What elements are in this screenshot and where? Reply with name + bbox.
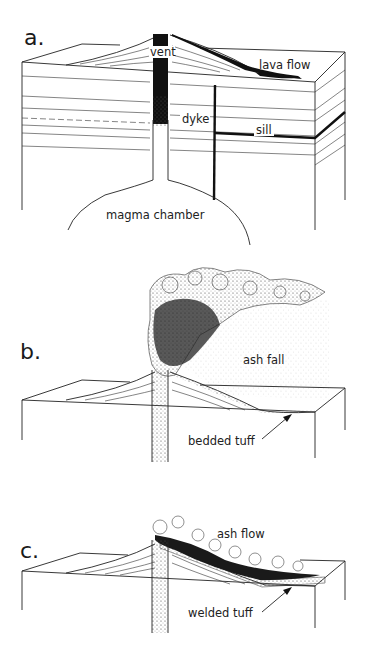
label-bedded-tuff: bedded tuff — [188, 434, 256, 448]
panel-a: a. — [22, 25, 345, 245]
panel-b-letter: b. — [20, 339, 41, 364]
volcano-diagram: a. — [0, 0, 368, 657]
panel-a-letter: a. — [24, 25, 44, 50]
panel-b: b. ash — [20, 268, 345, 462]
label-lava-flow: lava flow — [259, 58, 310, 72]
label-magma-chamber: magma chamber — [106, 208, 205, 222]
panel-c: c. ash — [20, 516, 345, 633]
label-ash-flow: ash flow — [217, 527, 265, 541]
panel-c-letter: c. — [20, 538, 39, 563]
label-sill: sill — [256, 123, 272, 137]
label-ash-fall: ash fall — [243, 353, 284, 367]
label-welded-tuff: welded tuff — [188, 606, 254, 620]
label-dyke: dyke — [182, 112, 209, 126]
label-vent: vent — [150, 45, 176, 59]
